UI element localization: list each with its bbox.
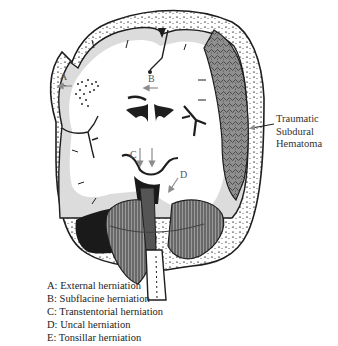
callout-line: Traumatic bbox=[276, 113, 322, 126]
legend-item-e: E: Tonsillar herniation bbox=[47, 331, 163, 344]
legend-item-c: C: Transtentorial herniation bbox=[47, 305, 163, 318]
legend-item-b: B: Subflacine herniation bbox=[47, 292, 163, 305]
legend: A: External herniation B: Subflacine her… bbox=[47, 279, 163, 344]
subdural-hematoma-callout: Traumatic Subdural Hematoma bbox=[276, 113, 322, 151]
marker-d: D bbox=[180, 169, 187, 180]
callout-line: Hematoma bbox=[276, 138, 322, 151]
legend-item-d: D: Uncal herniation bbox=[47, 318, 163, 331]
marker-b: B bbox=[148, 73, 155, 84]
callout-line: Subdural bbox=[276, 126, 322, 139]
marker-a: A bbox=[60, 71, 68, 82]
legend-item-a: A: External herniation bbox=[47, 279, 163, 292]
marker-c: C bbox=[130, 149, 137, 160]
